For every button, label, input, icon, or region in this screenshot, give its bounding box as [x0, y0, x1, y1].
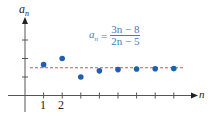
x-tick-label-2: 2	[58, 99, 64, 111]
data-point	[41, 62, 47, 68]
formula-equals: =	[101, 30, 107, 42]
x-axis-arrow-icon	[191, 93, 198, 99]
sequence-plot	[0, 0, 210, 116]
data-point	[78, 74, 84, 80]
formula-denominator: 2n − 5	[110, 36, 140, 47]
data-point	[152, 66, 158, 72]
data-point	[134, 66, 140, 72]
data-point	[115, 67, 121, 73]
formula: an = 3n − 8 2n − 5	[89, 24, 140, 47]
formula-lhs: an	[89, 28, 98, 43]
x-tick-label-1: 1	[40, 99, 46, 111]
formula-fraction: 3n − 8 2n − 5	[110, 24, 140, 47]
data-point	[97, 68, 103, 74]
data-point	[59, 56, 65, 62]
x-axis-label: n	[199, 89, 205, 100]
data-point	[171, 66, 177, 72]
y-axis-label: an	[19, 3, 29, 18]
